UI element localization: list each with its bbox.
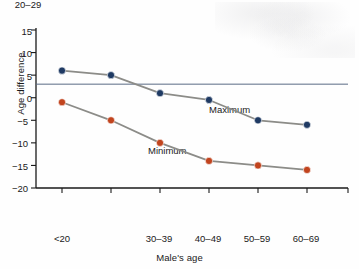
data-point-maximum-5 [303, 121, 310, 128]
data-point-minimum-0 [58, 99, 65, 106]
data-point-minimum-4 [254, 162, 261, 169]
line-chart: Age difference 15 10 5 0 −5 −10 −15 −20 … [0, 0, 359, 269]
data-series [58, 67, 310, 174]
data-point-minimum-3 [205, 157, 212, 164]
series-line-minimum [62, 102, 307, 170]
data-point-minimum-2 [156, 139, 163, 146]
data-point-maximum-4 [254, 117, 261, 124]
data-point-maximum-2 [156, 90, 163, 97]
data-point-maximum-1 [107, 72, 114, 79]
axes [31, 28, 348, 193]
data-point-minimum-1 [107, 117, 114, 124]
data-point-maximum-0 [58, 67, 65, 74]
data-point-maximum-3 [205, 96, 212, 103]
plot-area [0, 0, 359, 269]
data-point-minimum-5 [303, 166, 310, 173]
